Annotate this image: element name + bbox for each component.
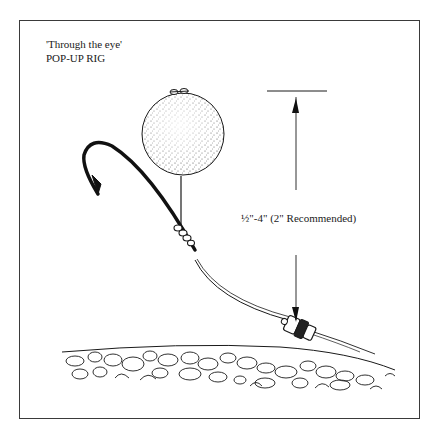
measurement-label: ½"-4" (2" Recommended) — [241, 212, 356, 224]
lakebed — [62, 345, 395, 390]
popup-bait — [142, 89, 224, 176]
knot — [174, 225, 195, 246]
measurement-indicator — [267, 91, 327, 322]
swivel — [278, 312, 317, 343]
hooklink-line — [195, 260, 288, 320]
rig-illustration — [0, 0, 441, 441]
arrow-up-icon — [292, 98, 299, 113]
main-line — [308, 330, 375, 354]
